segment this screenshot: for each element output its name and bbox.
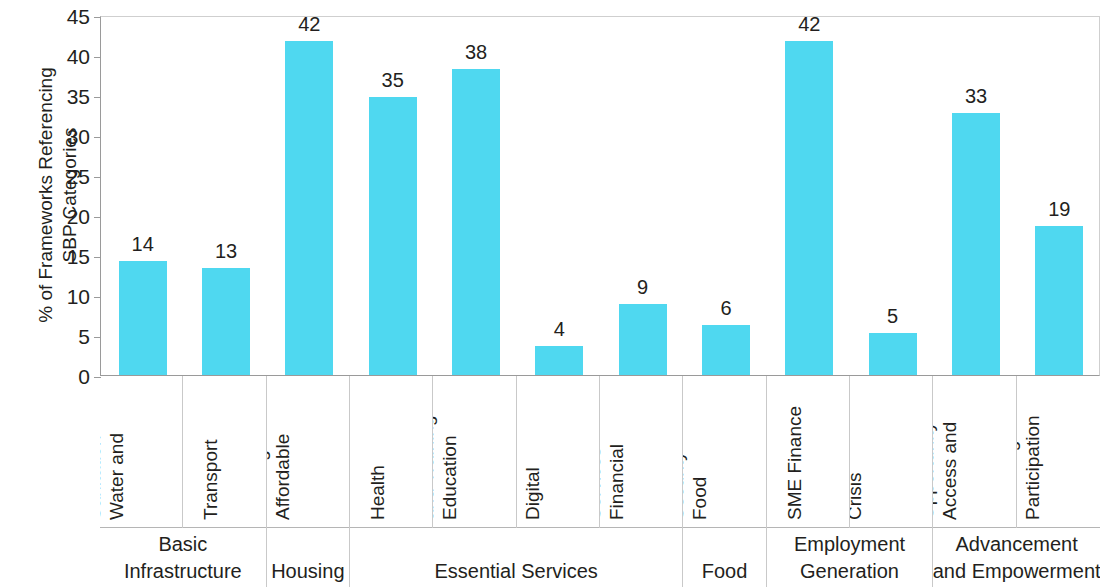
- x-axis-category-label-line: Sanitation: [100, 435, 105, 520]
- x-axis-group-label-line: Advancement: [956, 531, 1078, 558]
- x-axis-category-label: DigitalAccess: [517, 459, 545, 520]
- x-axis-category-label-line: Services: [600, 447, 605, 520]
- x-axis-category-label-line: Education: [438, 435, 461, 520]
- y-axis-tick-label: 5: [40, 326, 90, 347]
- x-axis-category-label-line: Crisis: [850, 473, 866, 521]
- x-axis-group-label-line: Essential Services: [434, 558, 597, 585]
- x-axis-category-label-line: Food: [688, 477, 711, 520]
- bar-value-label: 42: [269, 14, 349, 34]
- x-axis-group-label-line: Food: [702, 558, 748, 585]
- x-axis-group-label-line: Generation: [800, 558, 899, 585]
- bar: [369, 97, 417, 375]
- x-axis-category-cell: Participationand Integration: [1017, 376, 1100, 528]
- y-axis-tick-mark: [94, 177, 101, 178]
- x-axis-group-cell: EmploymentGeneration: [767, 528, 934, 587]
- y-axis-tick-label: 25: [40, 166, 90, 187]
- bar-value-label: 33: [936, 86, 1016, 106]
- x-axis-category-label-line: Affordable: [271, 434, 294, 520]
- y-axis-tick-mark: [94, 297, 101, 298]
- x-axis-category-cell: Health: [350, 376, 433, 528]
- y-axis-tick-label: 40: [40, 46, 90, 67]
- y-axis-tick-label: 15: [40, 246, 90, 267]
- x-axis-category-label: AffordableHousing: [267, 434, 295, 520]
- bar-value-label: 14: [103, 234, 183, 254]
- x-axis-group-cell: Food: [683, 528, 766, 587]
- x-axis-group-labels: BasicInfrastructureHousingEssential Serv…: [100, 528, 1100, 587]
- x-axis-category-label-line: Access and: [938, 422, 961, 520]
- bar-value-label: 9: [603, 277, 683, 297]
- y-axis-tick-label: 30: [40, 126, 90, 147]
- bar: [619, 304, 667, 375]
- x-axis-group-label-line: and Empowerment: [933, 558, 1100, 585]
- bar: [1035, 226, 1083, 375]
- bar-value-label: 38: [436, 42, 516, 62]
- bar-value-label: 5: [853, 306, 933, 326]
- x-axis-category-label: CrisisUnemploymentAlleviation: [850, 392, 866, 520]
- x-axis-category-cell: Educationand Training: [433, 376, 516, 528]
- bar: [202, 268, 250, 375]
- y-axis-tick-mark: [94, 137, 101, 138]
- x-axis-category-label: Transport: [199, 439, 222, 520]
- bar: [119, 261, 167, 375]
- x-axis-group-cell: Advancementand Empowerment: [933, 528, 1100, 587]
- x-axis-group-label-line: Housing: [271, 558, 344, 585]
- x-axis-group-label-line: Employment: [794, 531, 905, 558]
- x-axis-group-cell: Housing: [267, 528, 350, 587]
- x-axis-group-cell: BasicInfrastructure: [100, 528, 267, 587]
- x-axis-category-label-line: Water and: [105, 433, 128, 520]
- x-axis-category-label: Water andSanitation: [100, 433, 128, 520]
- x-axis-category-label-line: Financial: [605, 444, 628, 520]
- plot-area: 14134235384964253319: [100, 16, 1100, 376]
- y-axis-tick-label: 45: [40, 6, 90, 27]
- x-axis-category-cell: CrisisUnemploymentAlleviation: [850, 376, 933, 528]
- y-axis-tick-mark: [94, 257, 101, 258]
- x-axis-group-cell: Essential Services: [350, 528, 683, 587]
- x-axis-category-cell: FoodSecurity: [683, 376, 766, 528]
- x-axis-category-label: Health: [366, 465, 389, 520]
- x-axis-category-label-line: Transport: [199, 439, 222, 520]
- x-axis-category-cell: Water andSanitation: [100, 376, 183, 528]
- y-axis-tick-mark: [94, 337, 101, 338]
- y-axis-tick-labels: 051015202530354045: [40, 0, 90, 400]
- x-axis-category-label-line: Health: [366, 465, 389, 520]
- x-axis-category-label: Access andOpportunity: [933, 422, 961, 520]
- bar: [785, 41, 833, 375]
- x-axis-category-label-line: Digital: [521, 467, 544, 520]
- x-axis-category-label: FinancialServices: [600, 444, 628, 520]
- x-axis-category-label: Participationand Integration: [1017, 393, 1045, 520]
- x-axis-category-cell: DigitalAccess: [517, 376, 600, 528]
- x-axis-category-cell: SME Finance: [767, 376, 850, 528]
- bar-value-label: 42: [769, 14, 849, 34]
- bars-layer: 14134235384964253319: [101, 17, 1099, 375]
- x-axis-category-label: Educationand Training: [433, 415, 461, 520]
- x-axis-category-label: FoodSecurity: [683, 451, 711, 520]
- bar-value-label: 13: [186, 241, 266, 261]
- y-axis-tick-mark: [94, 217, 101, 218]
- bar-value-label: 6: [686, 298, 766, 318]
- y-axis-tick-label: 35: [40, 86, 90, 107]
- bar-value-label: 35: [353, 70, 433, 90]
- y-axis-tick-mark: [94, 17, 101, 18]
- x-axis-category-label-line: SME Finance: [783, 406, 806, 520]
- x-axis-category-label: SME Finance: [783, 406, 806, 520]
- x-axis-category-cell: FinancialServices: [600, 376, 683, 528]
- bar: [535, 346, 583, 375]
- bar: [285, 41, 333, 375]
- bar: [702, 325, 750, 375]
- y-axis-tick-mark: [94, 57, 101, 58]
- bar-value-label: 4: [519, 319, 599, 339]
- y-axis-tick-label: 20: [40, 206, 90, 227]
- x-axis-group-label-line: Basic: [158, 531, 207, 558]
- x-axis-category-labels: Water andSanitationTransportAffordableHo…: [100, 376, 1100, 528]
- y-axis-tick-mark: [94, 97, 101, 98]
- bar: [869, 333, 917, 375]
- x-axis-category-cell: Transport: [183, 376, 266, 528]
- bar: [452, 69, 500, 375]
- y-axis-tick-label: 10: [40, 286, 90, 307]
- y-axis-tick-label: 0: [40, 366, 90, 387]
- bar-value-label: 19: [1019, 199, 1099, 219]
- x-axis-group-label-line: Infrastructure: [124, 558, 242, 585]
- bar: [952, 113, 1000, 375]
- x-axis-category-label-line: Participation: [1021, 415, 1044, 520]
- x-axis-category-cell: Access andOpportunity: [933, 376, 1016, 528]
